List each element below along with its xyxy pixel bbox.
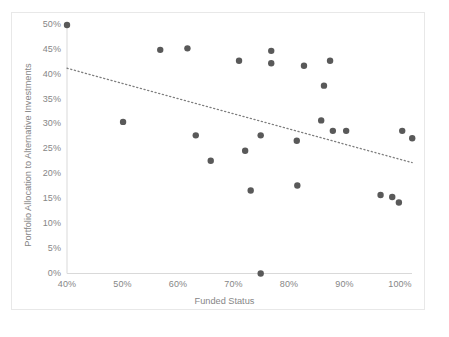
y-tick-label: 15% — [31, 193, 61, 203]
data-point — [268, 48, 274, 54]
x-tick-label: 50% — [103, 279, 143, 289]
data-point — [242, 148, 248, 154]
x-tick-label: 80% — [269, 279, 309, 289]
data-point — [193, 132, 199, 138]
data-points — [64, 22, 416, 277]
x-tick-label: 60% — [158, 279, 198, 289]
data-point — [301, 63, 307, 69]
data-point — [294, 138, 300, 144]
data-point — [236, 58, 242, 64]
data-point — [318, 117, 324, 123]
x-axis-title: Funded Status — [0, 296, 449, 306]
data-point — [268, 60, 274, 66]
data-point — [248, 187, 254, 193]
y-tick-label: 0% — [31, 268, 61, 278]
data-point — [257, 270, 263, 276]
y-tick-label: 45% — [31, 44, 61, 54]
y-tick-label: 25% — [31, 143, 61, 153]
y-tick-label: 50% — [31, 19, 61, 29]
trendline — [67, 68, 412, 162]
x-tick-label: 70% — [214, 279, 254, 289]
data-point — [321, 82, 327, 88]
data-point — [120, 119, 126, 125]
data-point — [399, 128, 405, 134]
data-point — [257, 132, 263, 138]
data-point — [343, 128, 349, 134]
data-point — [330, 128, 336, 134]
x-tick-label: 90% — [325, 279, 365, 289]
y-tick-label: 30% — [31, 118, 61, 128]
data-point — [157, 47, 163, 53]
data-point — [409, 135, 415, 141]
data-point — [396, 199, 402, 205]
y-tick-label: 35% — [31, 94, 61, 104]
data-point — [327, 58, 333, 64]
data-point — [184, 45, 190, 51]
y-tick-label: 10% — [31, 218, 61, 228]
trendline-path — [67, 68, 412, 162]
data-point — [377, 192, 383, 198]
y-tick-label: 40% — [31, 69, 61, 79]
y-axis-title: Portfolio Allocation to Alternative Inve… — [23, 55, 33, 255]
data-point — [208, 157, 214, 163]
data-point — [389, 194, 395, 200]
y-tick-label: 5% — [31, 243, 61, 253]
y-tick-label: 20% — [31, 168, 61, 178]
x-tick-label: 100% — [380, 279, 420, 289]
data-point — [294, 182, 300, 188]
data-point — [64, 22, 70, 28]
x-tick-label: 40% — [47, 279, 87, 289]
